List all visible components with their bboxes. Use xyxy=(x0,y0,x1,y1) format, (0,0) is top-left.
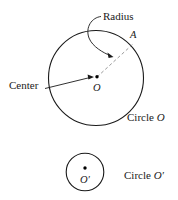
center-point-o-label: O xyxy=(93,83,101,94)
radius-segment-dashed xyxy=(97,44,133,77)
circle-o-prime-label-word: Circle xyxy=(124,169,151,181)
center-point-o-dot xyxy=(95,75,98,78)
radius-leader-arrowhead xyxy=(107,53,113,59)
circle-diagram: Radius Center A O Circle O O′ Circle O′ xyxy=(0,0,178,200)
circle-o-prime-label: Circle O′ xyxy=(124,170,164,181)
center-point-o-prime-label: O′ xyxy=(80,175,90,186)
center-point-o-prime-dot xyxy=(83,166,86,169)
circle-o-label: Circle O xyxy=(127,112,165,123)
radius-leader-curve xyxy=(88,17,110,56)
circle-o-prime-label-name: O′ xyxy=(154,169,164,181)
radius-label: Radius xyxy=(103,11,134,22)
point-a-label: A xyxy=(130,30,136,41)
center-leader-arrowhead xyxy=(88,75,94,80)
circle-o-label-word: Circle xyxy=(127,111,154,123)
center-label: Center xyxy=(9,80,38,91)
center-leader-line xyxy=(45,78,90,89)
circle-o-label-name: O xyxy=(157,111,165,123)
